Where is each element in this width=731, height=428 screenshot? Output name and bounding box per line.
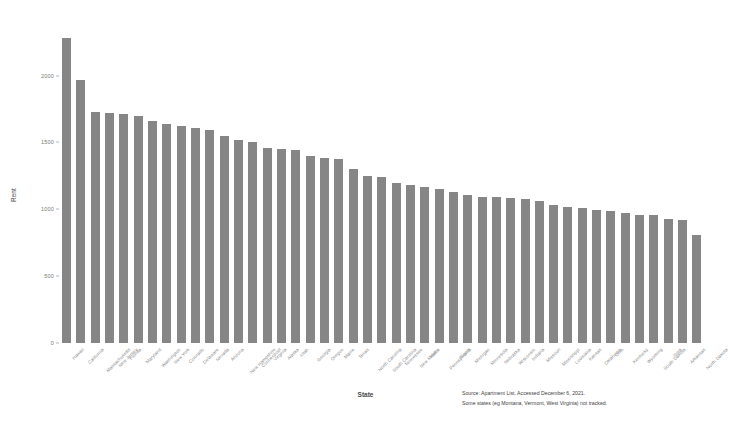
x-axis-tick-slot: New Hampshire — [234, 345, 243, 391]
bar — [334, 159, 343, 343]
bar — [635, 215, 644, 343]
x-axis-tick-slot: Oklahoma — [592, 345, 601, 391]
x-axis-tick-slot: Massachusetts — [91, 345, 100, 391]
x-axis-tick-slot: Texas — [349, 345, 358, 391]
x-axis-tick-slot: Mississippi — [549, 345, 558, 391]
plot-area — [62, 22, 702, 343]
bar — [535, 201, 544, 343]
bar — [435, 189, 444, 343]
bar — [277, 149, 286, 343]
bar — [320, 158, 329, 343]
x-axis-tick-slot: Colorado — [177, 345, 186, 391]
bar — [592, 210, 601, 343]
bar — [134, 116, 143, 343]
bar — [263, 148, 272, 343]
bar — [463, 195, 472, 343]
y-axis-tick-mark — [56, 142, 59, 143]
bar — [664, 219, 673, 343]
bar — [363, 176, 372, 343]
x-axis-tick-slot: Oregon — [320, 345, 329, 391]
x-axis-tick-slot: Wisconsin — [506, 345, 515, 391]
x-axis-title: State — [0, 391, 731, 398]
x-axis-tick-slot: Hawaii — [62, 345, 71, 391]
x-axis-tick-slot: Kentucky — [621, 345, 630, 391]
bar — [234, 140, 243, 343]
y-axis-tick-mark — [56, 343, 59, 344]
bar — [621, 213, 630, 343]
bar — [349, 169, 358, 343]
bar — [578, 208, 587, 343]
bar — [291, 150, 300, 343]
bar — [649, 215, 658, 343]
x-axis-tick-slot: Washington — [148, 345, 157, 391]
x-axis-tick-slot: New Mexico — [406, 345, 415, 391]
bar — [420, 187, 429, 343]
y-axis-tick-mark — [56, 209, 59, 210]
bar — [148, 121, 157, 343]
x-axis-tick-slot: Arkansas — [678, 345, 687, 391]
x-axis-tick-slot: North Carolina — [363, 345, 372, 391]
bar — [606, 211, 615, 343]
bar — [492, 197, 501, 343]
bar — [177, 126, 186, 343]
y-axis-tick-label: 1000 — [41, 206, 54, 212]
y-axis-tick-mark — [56, 276, 59, 277]
bar — [521, 199, 530, 343]
source-line-2: Some states (eg Montana, Vermont, West V… — [462, 398, 607, 408]
bar — [62, 38, 71, 343]
y-axis-tick-label: 500 — [44, 273, 54, 279]
x-axis-tick-slot: Nevada — [205, 345, 214, 391]
x-axis-tick-slot: Virginia — [263, 345, 272, 391]
x-axis-tick-slot: Indiana — [521, 345, 530, 391]
x-axis-tick-slot: Florida — [119, 345, 128, 391]
x-axis-tick-slot: New York — [162, 345, 171, 391]
x-axis-tick-slot: North Dakota — [692, 345, 701, 391]
x-axis-tick-slot: Tennessee — [392, 345, 401, 391]
x-axis-tick-slot: Louisiana — [563, 345, 572, 391]
bar — [220, 136, 229, 343]
source-line-1: Source: Apartment List. Accessed Decembe… — [462, 388, 607, 398]
source-annotation: Source: Apartment List. Accessed Decembe… — [462, 388, 607, 408]
x-axis-tick-slot: Pennsylvania — [435, 345, 444, 391]
x-axis-tick-slot: New Jersey — [105, 345, 114, 391]
x-axis-tick-slot: Georgia — [306, 345, 315, 391]
x-axis-tick-slot: Minnesota — [478, 345, 487, 391]
x-axis-tick-slot: Idaho — [420, 345, 429, 391]
bar — [119, 114, 128, 343]
x-axis-tick-slot: Iowa — [664, 345, 673, 391]
y-axis-tick-label: 1500 — [41, 139, 54, 145]
x-axis-tick-slot: Illinois — [449, 345, 458, 391]
bar — [105, 113, 114, 343]
x-axis-tick-slot: Utah — [291, 345, 300, 391]
x-axis-tick-slot: Maryland — [134, 345, 143, 391]
x-axis-tick-slot: Delaware — [191, 345, 200, 391]
bar — [91, 112, 100, 343]
x-axis-tick-slot: Michigan — [463, 345, 472, 391]
x-axis-tick-slot: Wyoming — [635, 345, 644, 391]
bar — [377, 177, 386, 343]
bar — [406, 185, 415, 343]
x-axis-tick-slot: South Dakota — [649, 345, 658, 391]
x-axis-tick-slot: Ohio — [606, 345, 615, 391]
bar — [692, 235, 701, 343]
x-axis-tick-slot: Kansas — [578, 345, 587, 391]
bar — [248, 142, 257, 343]
bar — [478, 197, 487, 343]
bar — [162, 124, 171, 343]
x-axis-tick-slot: California — [76, 345, 85, 391]
bar-series — [62, 22, 702, 343]
bar — [678, 220, 687, 343]
x-axis-tick-slot: Connecticut — [248, 345, 257, 391]
x-axis-tick-label: North Dakota — [706, 347, 730, 371]
x-axis-tick-slot: Missouri — [535, 345, 544, 391]
bar — [76, 80, 85, 343]
bar — [306, 156, 315, 343]
x-axis-tick-slot: Arizona — [220, 345, 229, 391]
bar — [449, 192, 458, 343]
bar — [549, 205, 558, 343]
x-axis-tick-labels: HawaiiCaliforniaMassachusettsNew JerseyF… — [62, 345, 702, 391]
bar — [392, 183, 401, 343]
y-axis-tick-mark — [56, 75, 59, 76]
bar — [205, 130, 214, 343]
x-axis-tick-slot: Maine — [334, 345, 343, 391]
